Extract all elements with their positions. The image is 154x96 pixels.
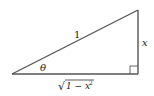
angle-label: θ [40,62,46,73]
adjacent-exponent: 2 [89,79,93,86]
hypotenuse-label: 1 [74,29,80,40]
right-triangle-diagram: 1 θ x √ 1 − x 2 [0,0,154,96]
hypotenuse-line [12,10,138,74]
triangle [12,10,138,74]
right-angle-marker [130,66,138,74]
radical-sign: √ [58,80,66,93]
opposite-label: x [142,37,148,48]
adjacent-expression: 1 − x [66,81,90,91]
adjacent-label: √ 1 − x 2 [58,79,94,93]
